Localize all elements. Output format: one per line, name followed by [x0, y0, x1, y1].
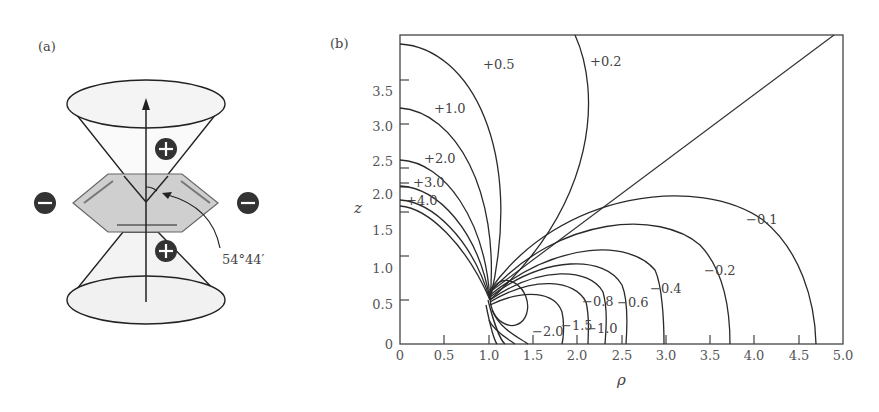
nodal-line — [490, 35, 834, 292]
svg-text:+0.2: +0.2 — [590, 54, 622, 69]
svg-text:4.0: 4.0 — [744, 348, 765, 363]
minus-charge-icon — [237, 192, 259, 214]
svg-text:3.0: 3.0 — [656, 348, 677, 363]
panel-b: (b) 0 0.5 1.0 1.5 2.0 2.5 3.0 3.5 z — [330, 35, 853, 389]
x-axis-label: ρ — [616, 371, 626, 389]
svg-text:1.0: 1.0 — [479, 348, 500, 363]
y-ticks — [400, 80, 409, 300]
svg-text:0.5: 0.5 — [434, 348, 455, 363]
angle-label: 54°44′ — [222, 252, 265, 267]
y-axis-label: z — [353, 199, 362, 217]
svg-text:−0.6: −0.6 — [617, 295, 649, 310]
svg-text:+1.0: +1.0 — [434, 101, 466, 116]
minus-charge-icon — [34, 192, 56, 214]
panel-b-label: (b) — [330, 36, 348, 51]
svg-text:+2.0: +2.0 — [424, 151, 456, 166]
svg-text:−1.5: −1.5 — [561, 318, 593, 333]
svg-text:3.0: 3.0 — [372, 119, 393, 134]
svg-text:2.5: 2.5 — [612, 348, 633, 363]
plus-charge-icon — [155, 138, 177, 160]
svg-text:0: 0 — [385, 337, 393, 352]
svg-text:5.0: 5.0 — [833, 348, 854, 363]
y-tick-labels: 0 0.5 1.0 1.5 2.0 2.5 3.0 3.5 — [372, 84, 393, 352]
x-tick-labels: 0 0.5 1.0 1.5 2.0 2.5 3.0 3.5 4.0 4.5 5.… — [396, 348, 853, 363]
svg-text:−0.8: −0.8 — [582, 294, 614, 309]
svg-text:2.0: 2.0 — [567, 348, 588, 363]
svg-text:1.0: 1.0 — [372, 261, 393, 276]
svg-text:1.5: 1.5 — [523, 348, 544, 363]
svg-text:−2.0: −2.0 — [532, 324, 564, 339]
plus-charge-icon — [155, 240, 177, 262]
svg-text:1.5: 1.5 — [372, 223, 393, 238]
svg-text:3.5: 3.5 — [700, 348, 721, 363]
svg-text:+0.5: +0.5 — [483, 57, 515, 72]
panel-a: (a) 54°44′ — [34, 39, 265, 324]
svg-text:0.5: 0.5 — [372, 297, 393, 312]
x-ticks — [444, 335, 799, 344]
figure: (a) 54°44′ — [0, 0, 879, 412]
svg-text:2.5: 2.5 — [372, 154, 393, 169]
svg-text:3.5: 3.5 — [372, 84, 393, 99]
contour-labels: +0.5 +0.2 +1.0 +2.0 +3.0 +4.0 −0.1 −0.2 … — [406, 54, 778, 339]
panel-a-label: (a) — [38, 39, 56, 54]
svg-text:2.0: 2.0 — [372, 187, 393, 202]
svg-text:4.5: 4.5 — [789, 348, 810, 363]
svg-text:+4.0: +4.0 — [406, 193, 438, 208]
positive-contours — [400, 35, 589, 300]
svg-text:0: 0 — [396, 348, 404, 363]
svg-text:−0.2: −0.2 — [704, 263, 736, 278]
svg-text:+3.0: +3.0 — [413, 175, 445, 190]
svg-text:−0.1: −0.1 — [746, 212, 778, 227]
svg-text:−0.4: −0.4 — [650, 281, 682, 296]
